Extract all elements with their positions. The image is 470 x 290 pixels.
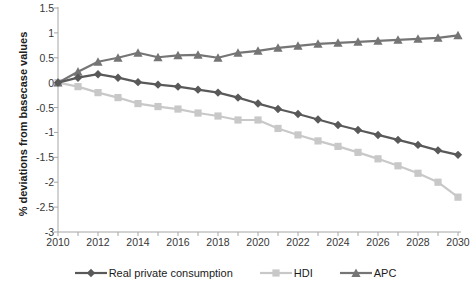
data-point-marker bbox=[414, 170, 421, 177]
legend-item-apc[interactable]: APC bbox=[339, 266, 397, 280]
data-point-marker bbox=[354, 126, 362, 134]
data-point-marker bbox=[74, 83, 81, 90]
data-point-marker bbox=[194, 109, 201, 116]
data-point-marker bbox=[214, 88, 222, 96]
data-point-marker bbox=[434, 146, 442, 154]
data-point-marker bbox=[174, 82, 182, 90]
data-point-marker bbox=[114, 73, 122, 81]
x-axis-tick-label: 2016 bbox=[166, 236, 189, 248]
data-point-marker bbox=[134, 78, 142, 86]
legend-item-hdi[interactable]: HDI bbox=[259, 266, 313, 280]
data-point-marker bbox=[254, 116, 261, 123]
data-point-marker bbox=[174, 105, 181, 112]
data-point-marker bbox=[374, 155, 381, 162]
legend-label: HDI bbox=[294, 267, 313, 279]
data-point-marker bbox=[334, 143, 341, 150]
x-axis-tick-label: 2012 bbox=[86, 236, 109, 248]
data-point-marker bbox=[314, 137, 321, 144]
legend-label: Real private consumption bbox=[109, 267, 233, 279]
x-axis-tick-label: 2020 bbox=[246, 236, 269, 248]
legend-item-real-private-consumption[interactable]: Real private consumption bbox=[74, 266, 233, 280]
data-point-marker bbox=[154, 103, 161, 110]
x-axis-tick-label: 2030 bbox=[446, 236, 469, 248]
legend-label: APC bbox=[374, 267, 397, 279]
data-point-marker bbox=[354, 149, 361, 156]
data-point-marker bbox=[134, 100, 141, 107]
data-point-marker bbox=[272, 269, 279, 276]
data-point-marker bbox=[194, 85, 202, 93]
data-point-marker bbox=[394, 162, 401, 169]
x-axis-tick-label: 2024 bbox=[326, 236, 349, 248]
data-point-marker bbox=[254, 99, 262, 107]
x-axis-tick-label: 2022 bbox=[286, 236, 309, 248]
x-axis-tick-label: 2010 bbox=[46, 236, 69, 248]
data-point-marker bbox=[294, 110, 302, 118]
chart-container: % deviations from basecase values 1.510.… bbox=[0, 0, 470, 290]
data-point-marker bbox=[154, 80, 162, 88]
x-axis-tick-label: 2018 bbox=[206, 236, 229, 248]
x-axis-tick-label: 2014 bbox=[126, 236, 149, 248]
data-point-marker bbox=[454, 194, 461, 201]
data-point-marker bbox=[294, 131, 301, 138]
legend-marker-diamond-icon bbox=[74, 266, 108, 280]
data-point-marker bbox=[414, 141, 422, 149]
data-point-marker bbox=[274, 105, 282, 113]
series-real-private-consumption bbox=[54, 70, 462, 159]
x-axis-tick-label: 2026 bbox=[366, 236, 389, 248]
x-axis-tick-label: 2028 bbox=[406, 236, 429, 248]
data-point-marker bbox=[394, 136, 402, 144]
data-point-marker bbox=[374, 131, 382, 139]
legend-marker-square-icon bbox=[259, 266, 293, 280]
data-point-marker bbox=[234, 116, 241, 123]
chart-legend: Real private consumptionHDIAPC bbox=[0, 266, 470, 280]
data-point-marker bbox=[234, 93, 242, 101]
data-point-marker bbox=[94, 70, 102, 78]
data-point-marker bbox=[334, 121, 342, 129]
data-point-marker bbox=[454, 151, 462, 159]
data-point-marker bbox=[214, 112, 221, 119]
data-point-marker bbox=[86, 269, 94, 277]
data-point-marker bbox=[94, 89, 101, 96]
data-point-marker bbox=[274, 125, 281, 132]
legend-marker-triangle-icon bbox=[339, 266, 373, 280]
data-point-marker bbox=[314, 115, 322, 123]
x-axis-tick-labels: 2010201220142016201820202022202420262028… bbox=[0, 236, 470, 254]
data-point-marker bbox=[434, 179, 441, 186]
data-point-marker bbox=[114, 94, 121, 101]
